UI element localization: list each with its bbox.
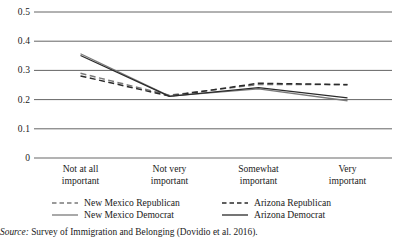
x-axis-tick-1: Not veryimportant bbox=[125, 163, 214, 195]
source-prefix: Source: bbox=[0, 227, 29, 237]
x-axis-tick-0: Not at allimportant bbox=[36, 163, 125, 195]
x-axis-tick-labels: Not at allimportantNot veryimportantSome… bbox=[36, 163, 392, 195]
legend-label-2: New Mexico Democrat bbox=[84, 209, 174, 221]
chart-canvas bbox=[0, 0, 396, 165]
figure: 00.10.20.30.40.5 Not at allimportantNot … bbox=[0, 0, 396, 239]
legend-label-1: Arizona Republican bbox=[254, 197, 331, 209]
legend-item-1[interactable]: Arizona Republican bbox=[222, 197, 382, 209]
source-note: Source: Survey of Immigration and Belong… bbox=[0, 227, 396, 238]
legend-swatch-dashed-icon bbox=[222, 199, 248, 207]
x-axis-tick-3: Veryimportant bbox=[303, 163, 392, 195]
chart-plot-area: 00.10.20.30.40.5 bbox=[0, 0, 396, 165]
series-line-3 bbox=[81, 56, 348, 98]
source-text: Survey of Immigration and Belonging (Dov… bbox=[29, 227, 258, 237]
legend-label-3: Arizona Democrat bbox=[254, 209, 325, 221]
chart-legend: New Mexico RepublicanArizona RepublicanN… bbox=[52, 197, 382, 221]
x-axis-tick-2: Somewhatimportant bbox=[214, 163, 303, 195]
legend-item-0[interactable]: New Mexico Republican bbox=[52, 197, 212, 209]
legend-label-0: New Mexico Republican bbox=[84, 197, 180, 209]
legend-swatch-solid-icon bbox=[52, 211, 78, 219]
legend-item-3[interactable]: Arizona Democrat bbox=[222, 209, 382, 221]
legend-swatch-dashed-icon bbox=[52, 199, 78, 207]
legend-swatch-solid-icon bbox=[222, 211, 248, 219]
legend-item-2[interactable]: New Mexico Democrat bbox=[52, 209, 212, 221]
